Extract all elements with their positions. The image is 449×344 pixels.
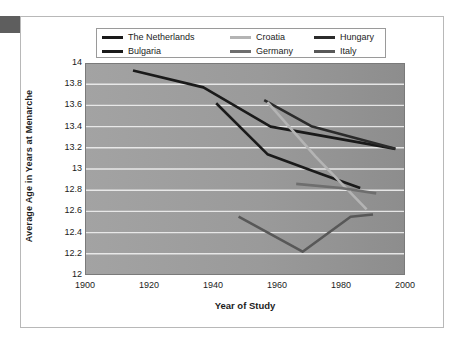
plot-svg — [85, 63, 405, 275]
x-tick-label: 1980 — [321, 281, 361, 290]
x-tick-label: 1900 — [65, 281, 105, 290]
x-axis-title: Year of Study — [85, 300, 405, 311]
x-tick-label: 1920 — [129, 281, 169, 290]
x-tick-label: 1960 — [257, 281, 297, 290]
x-tick-label: 2000 — [385, 281, 425, 290]
x-tick-label: 1940 — [193, 281, 233, 290]
plot-area — [85, 63, 405, 275]
